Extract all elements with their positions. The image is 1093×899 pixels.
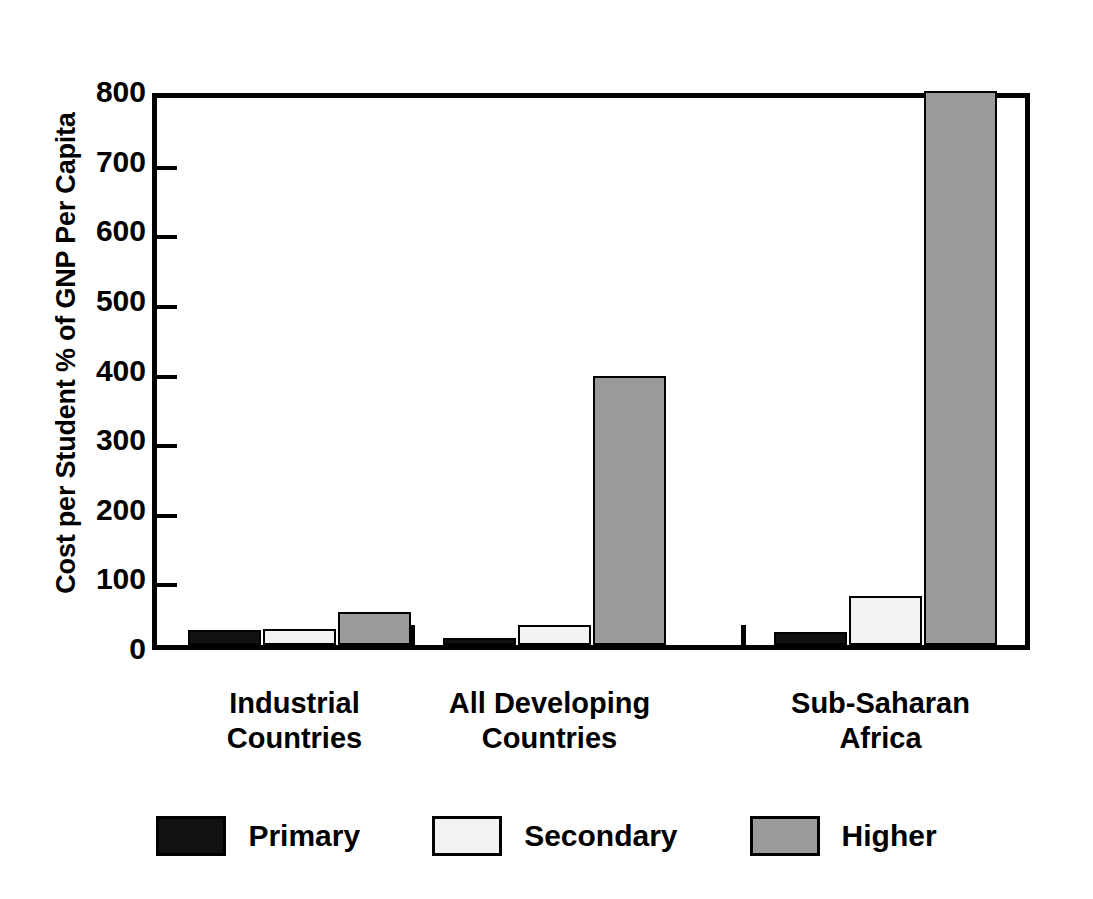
bar xyxy=(443,638,516,645)
bar xyxy=(593,376,666,645)
bar xyxy=(263,629,336,645)
chart-legend: PrimarySecondaryHigher xyxy=(0,806,1093,866)
x-axis-group-tick xyxy=(410,625,415,645)
y-tick-mark xyxy=(157,375,177,379)
x-axis-category-label: Sub-SaharanAfrica xyxy=(711,686,1051,757)
legend-label: Secondary xyxy=(524,819,677,853)
y-tick-mark xyxy=(157,305,177,309)
category-label-line: Africa xyxy=(711,721,1051,756)
legend-label: Primary xyxy=(248,819,360,853)
x-axis-category-label: All DevelopingCountries xyxy=(380,686,720,757)
y-tick-label: 300 xyxy=(46,425,146,455)
plot-area xyxy=(152,93,1030,650)
y-tick-mark xyxy=(157,583,177,587)
primary-swatch xyxy=(156,816,226,856)
y-tick-label: 800 xyxy=(46,77,146,107)
y-tick-mark xyxy=(157,444,177,448)
legend-item[interactable]: Secondary xyxy=(432,816,677,856)
category-label-line: All Developing xyxy=(380,686,720,721)
y-axis-tick-labels: 0100200300400500600700800 xyxy=(38,0,146,899)
category-label-line: Countries xyxy=(380,721,720,756)
chart-figure: Cost per Student % of GNP Per Capita 010… xyxy=(0,0,1093,899)
y-tick-label: 100 xyxy=(46,564,146,594)
y-tick-label: 600 xyxy=(46,216,146,246)
y-tick-label: 200 xyxy=(46,495,146,525)
bar xyxy=(774,632,847,645)
legend-item[interactable]: Primary xyxy=(156,816,360,856)
legend-item[interactable]: Higher xyxy=(750,816,937,856)
y-tick-label: 500 xyxy=(46,286,146,316)
higher-swatch xyxy=(750,816,820,856)
bar xyxy=(849,596,922,645)
y-tick-label: 400 xyxy=(46,356,146,386)
x-axis-group-tick xyxy=(741,625,746,645)
y-tick-mark xyxy=(157,166,177,170)
bar xyxy=(338,612,411,645)
y-tick-mark xyxy=(157,235,177,239)
y-tick-mark xyxy=(157,514,177,518)
bar xyxy=(518,625,591,645)
y-tick-label: 700 xyxy=(46,147,146,177)
y-tick-label: 0 xyxy=(46,634,146,664)
legend-label: Higher xyxy=(842,819,937,853)
x-axis-category-labels: IndustrialCountriesAll DevelopingCountri… xyxy=(152,686,1030,766)
bar xyxy=(924,91,997,645)
category-label-line: Sub-Saharan xyxy=(711,686,1051,721)
secondary-swatch xyxy=(432,816,502,856)
bar xyxy=(188,630,261,645)
